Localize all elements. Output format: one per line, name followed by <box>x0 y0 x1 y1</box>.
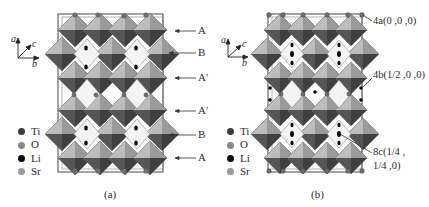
legend-item-li: Li <box>18 152 41 165</box>
axis-label-c: c <box>242 38 246 49</box>
axis-label-a: a <box>11 33 16 44</box>
layer-label-a-prime-lower: A′ <box>198 104 208 116</box>
axis-label-c: c <box>32 38 36 49</box>
o-atom-icon <box>18 142 25 149</box>
site-label-4a: 4a(0 ,0 ,0) <box>373 15 416 26</box>
site-label-8c-line2: 1/4 ,0) <box>373 160 400 171</box>
legend-a: Ti O Li Sr <box>18 125 41 179</box>
axis-label-a: a <box>221 34 226 45</box>
legend-item-li: Li <box>227 152 250 165</box>
legend-item-sr: Sr <box>18 165 41 178</box>
legend-b: Ti O Li Sr <box>227 125 250 179</box>
site-label-4b: 4b(1/2 ,0 ,0) <box>373 69 425 80</box>
ti-atom-icon <box>227 128 234 135</box>
layer-label-b-bottom: B <box>198 128 205 140</box>
li-atom-icon <box>18 155 25 162</box>
axis-label-b: b <box>242 57 247 68</box>
layer-label-a-top: A <box>198 24 206 36</box>
octahedra-upper <box>251 14 379 94</box>
caption-a: (a) <box>104 188 116 200</box>
legend-item-o: O <box>227 138 250 151</box>
sr-atom-icon <box>18 168 25 175</box>
caption-b: (b) <box>311 188 324 200</box>
layer-label-a-bottom: A <box>198 151 206 163</box>
legend-item-ti: Ti <box>227 125 250 138</box>
legend-item-o: O <box>18 138 41 151</box>
axis-label-b: b <box>32 58 37 69</box>
li-atom-icon <box>227 155 234 162</box>
o-atom-icon <box>227 142 234 149</box>
layer-label-b-top: B <box>198 46 205 58</box>
layer-label-a-prime-upper: A′ <box>198 71 208 83</box>
sr-atom-icon <box>227 168 234 175</box>
legend-item-ti: Ti <box>18 125 41 138</box>
site-label-8c-line1: 8c(1/4 , <box>373 146 405 157</box>
ti-atom-icon <box>18 128 25 135</box>
legend-item-sr: Sr <box>227 165 250 178</box>
octahedra-upper <box>45 13 179 95</box>
panel-a: a c b A B A′ A′ B A Ti O Li Sr (a) <box>0 0 215 207</box>
panel-b: a c b 4a(0 ,0 ,0) 4b(1/2 ,0 ,0) 8c(1/4 ,… <box>215 0 429 207</box>
